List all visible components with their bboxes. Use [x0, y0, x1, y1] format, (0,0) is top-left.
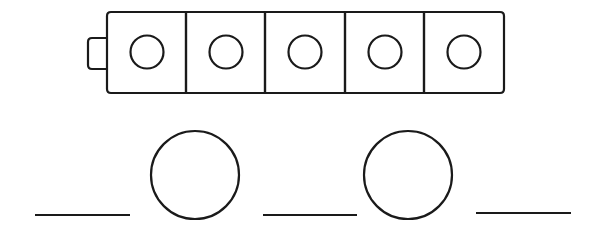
- block-5-circle: [448, 36, 481, 69]
- block-3-circle: [289, 36, 322, 69]
- block-2: [186, 12, 265, 93]
- comparison-circle-1[interactable]: [151, 131, 239, 219]
- block-1-circle: [131, 36, 164, 69]
- block-4-circle: [369, 36, 402, 69]
- block-1: [107, 12, 186, 93]
- connector-tab: [88, 38, 107, 69]
- block-4: [345, 12, 424, 93]
- diagram-svg: [0, 0, 594, 234]
- diagram-canvas: [0, 0, 594, 234]
- block-3: [265, 12, 345, 93]
- block-5: [424, 12, 504, 93]
- comparison-circle-2[interactable]: [364, 131, 452, 219]
- block-2-circle: [210, 36, 243, 69]
